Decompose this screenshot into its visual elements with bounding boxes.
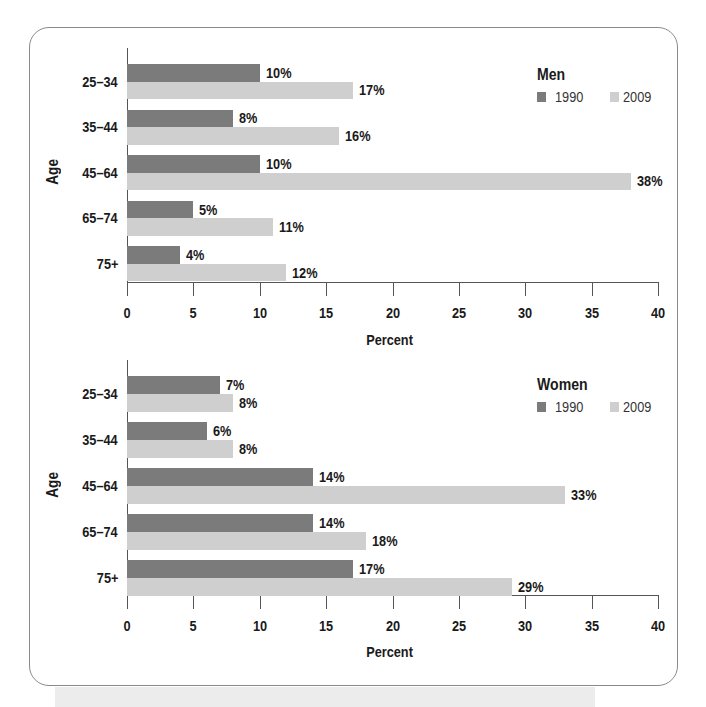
bar-2009 xyxy=(127,82,353,100)
x-tick-label: 25 xyxy=(442,617,476,634)
value-label: 29% xyxy=(518,578,544,595)
y-axis-title-text: Age xyxy=(44,159,62,185)
category-label: 65–74 xyxy=(18,523,118,541)
value-label: 12% xyxy=(292,264,318,281)
bar-1990 xyxy=(127,201,193,219)
bar-1990 xyxy=(127,468,313,486)
y-axis-title: Age xyxy=(44,152,62,192)
category-label: 75+ xyxy=(18,255,118,273)
x-axis-title: Percent xyxy=(340,331,440,348)
x-tick xyxy=(393,282,394,296)
bar-2009 xyxy=(127,486,565,504)
legend-label-1990: 1990 xyxy=(555,89,583,105)
bar-2009 xyxy=(127,264,286,282)
x-axis-title-text: Percent xyxy=(367,643,414,660)
x-tick xyxy=(193,595,194,609)
category-label-text: 45–64 xyxy=(83,164,118,182)
x-tick-label: 10 xyxy=(243,304,277,321)
legend-title-text: Women xyxy=(537,376,588,394)
category-label: 25–34 xyxy=(18,73,118,91)
bar-2009 xyxy=(127,578,512,596)
x-tick xyxy=(193,282,194,296)
x-tick xyxy=(658,282,659,296)
x-tick-label: 25 xyxy=(442,304,476,321)
x-tick-label: 15 xyxy=(309,304,343,321)
x-tick xyxy=(127,595,128,609)
x-tick-label: 10 xyxy=(243,617,277,634)
legend-swatch-2009 xyxy=(610,402,619,412)
x-tick-label: 5 xyxy=(176,617,210,634)
value-label: 10% xyxy=(266,64,292,81)
x-tick-label: 35 xyxy=(575,304,609,321)
x-tick-label: 0 xyxy=(110,617,144,634)
bar-1990 xyxy=(127,246,180,264)
value-label: 8% xyxy=(239,109,257,126)
value-label: 10% xyxy=(266,155,292,172)
x-tick xyxy=(658,595,659,609)
category-label: 25–34 xyxy=(18,385,118,403)
category-label-text: 75+ xyxy=(96,255,118,273)
x-tick xyxy=(260,282,261,296)
bar-2009 xyxy=(127,127,339,145)
y-axis-title-text: Age xyxy=(44,472,62,498)
category-label: 65–74 xyxy=(18,209,118,227)
category-label-text: 25–34 xyxy=(83,385,118,403)
value-label: 18% xyxy=(372,532,398,549)
x-tick-label: 30 xyxy=(508,617,542,634)
x-tick xyxy=(393,595,394,609)
bar-2009 xyxy=(127,173,631,191)
legend-label-2009: 2009 xyxy=(623,399,651,415)
value-label: 14% xyxy=(319,514,345,531)
x-tick xyxy=(525,282,526,296)
category-label-text: 65–74 xyxy=(83,209,118,227)
x-tick-label: 30 xyxy=(508,304,542,321)
category-label-text: 75+ xyxy=(96,569,118,587)
x-tick xyxy=(459,595,460,609)
value-label: 11% xyxy=(279,218,304,235)
x-tick xyxy=(127,282,128,296)
legend-swatch-2009 xyxy=(610,92,619,102)
value-label: 8% xyxy=(239,394,257,411)
y-axis-title: Age xyxy=(44,465,62,505)
x-tick-label: 40 xyxy=(641,304,675,321)
background-band xyxy=(55,687,595,707)
legend-swatch-1990 xyxy=(537,402,546,412)
value-label: 17% xyxy=(359,560,385,577)
category-label-text: 35–44 xyxy=(83,431,118,449)
bar-1990 xyxy=(127,560,353,578)
value-label: 4% xyxy=(186,246,204,263)
value-label: 8% xyxy=(239,440,257,457)
bar-1990 xyxy=(127,155,260,173)
bar-1990 xyxy=(127,422,207,440)
x-tick xyxy=(260,595,261,609)
legend-title: Women xyxy=(537,376,594,394)
category-label-text: 45–64 xyxy=(83,477,118,495)
category-label: 45–64 xyxy=(18,164,118,182)
value-label: 5% xyxy=(199,201,217,218)
legend-title-text: Men xyxy=(537,66,565,84)
legend-title: Men xyxy=(537,66,569,84)
x-tick-label: 15 xyxy=(309,617,343,634)
x-tick-label: 35 xyxy=(575,617,609,634)
x-tick xyxy=(326,595,327,609)
value-label: 38% xyxy=(637,172,663,189)
legend: 19902009 xyxy=(537,399,667,415)
bar-1990 xyxy=(127,376,220,394)
bar-1990 xyxy=(127,64,260,82)
x-tick-label: 40 xyxy=(641,617,675,634)
value-label: 6% xyxy=(213,422,231,439)
bar-1990 xyxy=(127,110,233,128)
category-label-text: 35–44 xyxy=(83,118,118,136)
bar-1990 xyxy=(127,514,313,532)
bar-2009 xyxy=(127,440,233,458)
category-label: 35–44 xyxy=(18,431,118,449)
bar-2009 xyxy=(127,218,273,236)
legend-label-1990: 1990 xyxy=(555,399,583,415)
legend-swatch-1990 xyxy=(537,92,546,102)
legend-label-2009: 2009 xyxy=(623,89,651,105)
x-axis-title-text: Percent xyxy=(367,331,414,348)
value-label: 33% xyxy=(571,486,597,503)
x-tick xyxy=(326,282,327,296)
x-tick-label: 0 xyxy=(110,304,144,321)
x-tick-label: 20 xyxy=(376,304,410,321)
